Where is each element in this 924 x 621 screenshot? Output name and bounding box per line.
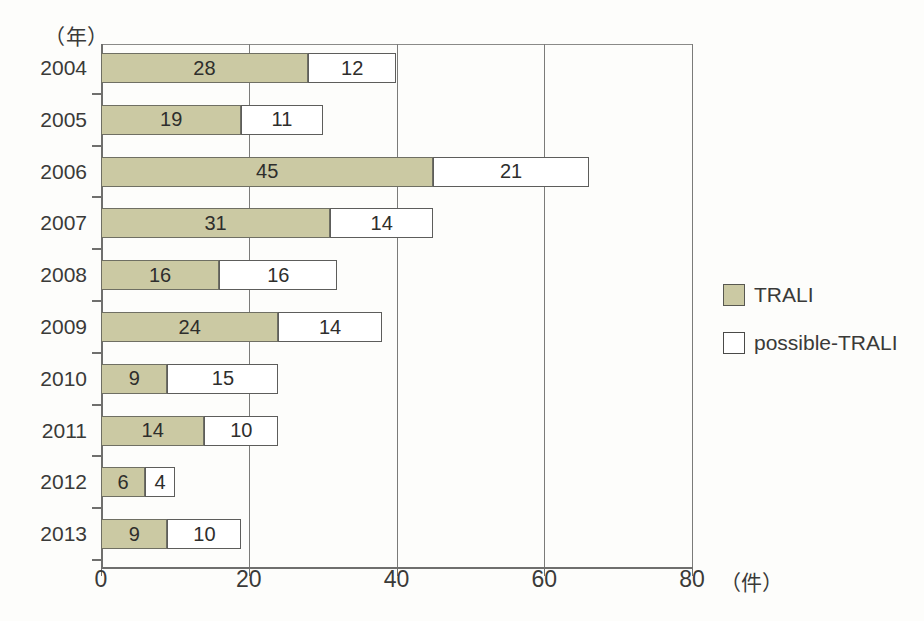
y-tick-mark-2 — [92, 145, 102, 147]
bar-segment-trali-2006: 45 — [101, 157, 433, 187]
bar-row: 2010915 — [101, 364, 692, 394]
y-tick-mark-6 — [92, 352, 102, 354]
chart-legend: TRALI possible-TRALI — [723, 282, 898, 378]
y-axis-label-2006: 2006 — [40, 160, 87, 184]
x-tick-label-0: 0 — [95, 566, 108, 593]
y-tick-mark-4 — [92, 248, 102, 250]
x-tick-label-80: 80 — [679, 566, 705, 593]
bar-segment-trali-2005: 19 — [101, 105, 241, 135]
bar-row: 20051911 — [101, 105, 692, 135]
y-tick-mark-9 — [92, 507, 102, 509]
y-tick-mark-1 — [92, 93, 102, 95]
legend-label-possible-trali: possible-TRALI — [754, 331, 898, 355]
bar-segment-trali-2007: 31 — [101, 208, 330, 238]
bar-segment-possible-trali-2013: 10 — [167, 519, 241, 549]
bar-segment-trali-2012: 6 — [101, 467, 145, 497]
x-tick-label-40: 40 — [384, 566, 410, 593]
bar-segment-possible-trali-2004: 12 — [308, 53, 397, 83]
bar-segment-trali-2010: 9 — [101, 364, 167, 394]
bar-row: 20042812 — [101, 53, 692, 83]
bar-segment-trali-2013: 9 — [101, 519, 167, 549]
y-tick-mark-10 — [92, 559, 102, 561]
y-axis-label-2009: 2009 — [40, 315, 87, 339]
bar-segment-trali-2008: 16 — [101, 260, 219, 290]
y-axis-label-2004: 2004 — [40, 56, 87, 80]
bar-segment-possible-trali-2011: 10 — [204, 416, 278, 446]
bar-row: 201264 — [101, 467, 692, 497]
legend-swatch-icon-trali — [723, 284, 745, 306]
y-axis-label-2012: 2012 — [40, 470, 87, 494]
bar-row: 20092414 — [101, 312, 692, 342]
legend-swatch-icon-possible-trali — [723, 332, 745, 354]
legend-label-trali: TRALI — [754, 283, 814, 307]
bar-segment-trali-2009: 24 — [101, 312, 278, 342]
y-axis-label-2007: 2007 — [40, 211, 87, 235]
bar-segment-possible-trali-2010: 15 — [167, 364, 278, 394]
y-axis-label-2010: 2010 — [40, 367, 87, 391]
y-axis-label-2008: 2008 — [40, 263, 87, 287]
y-axis-label-2011: 2011 — [42, 419, 87, 443]
bar-row: 20111410 — [101, 416, 692, 446]
bar-row: 2013910 — [101, 519, 692, 549]
y-tick-mark-3 — [92, 196, 102, 198]
plot-area: 2004281220051911200645212007311420081616… — [101, 44, 692, 569]
y-tick-mark-5 — [92, 300, 102, 302]
bar-segment-possible-trali-2012: 4 — [145, 467, 175, 497]
y-axis-label-2013: 2013 — [40, 522, 87, 546]
x-axis-unit-label: （件） — [720, 566, 783, 596]
legend-item-trali: TRALI — [723, 282, 898, 308]
y-tick-mark-8 — [92, 455, 102, 457]
y-tick-mark-7 — [92, 404, 102, 406]
bar-segment-trali-2011: 14 — [101, 416, 204, 446]
bar-segment-possible-trali-2009: 14 — [278, 312, 381, 342]
bar-row: 20081616 — [101, 260, 692, 290]
x-tick-label-60: 60 — [531, 566, 557, 593]
bar-segment-possible-trali-2005: 11 — [241, 105, 322, 135]
gridline-80 — [692, 44, 693, 567]
bar-segment-possible-trali-2008: 16 — [219, 260, 337, 290]
legend-item-possible-trali: possible-TRALI — [723, 330, 898, 356]
x-tick-label-20: 20 — [236, 566, 262, 593]
bar-segment-possible-trali-2007: 14 — [330, 208, 433, 238]
bar-row: 20073114 — [101, 208, 692, 238]
bar-row: 20064521 — [101, 157, 692, 187]
bar-segment-trali-2004: 28 — [101, 53, 308, 83]
y-axis-unit-label: （年） — [44, 20, 109, 50]
trali-stacked-bar-chart: （年） 200428122005191120064521200731142008… — [0, 0, 924, 621]
y-axis-label-2005: 2005 — [40, 108, 87, 132]
bar-segment-possible-trali-2006: 21 — [433, 157, 588, 187]
